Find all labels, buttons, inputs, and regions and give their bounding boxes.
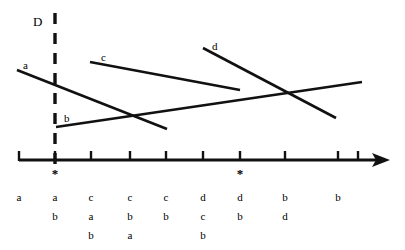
axis-asterisk-marker-0: * bbox=[49, 167, 61, 180]
data-line-c bbox=[90, 62, 240, 90]
column-stack-7: bd bbox=[273, 188, 297, 226]
column-4-item-0: c bbox=[154, 188, 178, 207]
column-stack-1: ab bbox=[43, 188, 67, 226]
column-3-item-1: b bbox=[118, 207, 142, 226]
column-2-item-0: c bbox=[79, 188, 103, 207]
column-5-item-2: b bbox=[191, 226, 215, 245]
column-stack-4: cb bbox=[154, 188, 178, 226]
diagram-canvas: D abcd ** aabcabcbacbdcbdbbdb bbox=[0, 0, 405, 250]
column-stack-6: db bbox=[228, 188, 252, 226]
column-stack-8: b bbox=[326, 188, 350, 207]
axis-asterisk-marker-1: * bbox=[234, 167, 246, 180]
column-7-item-1: d bbox=[273, 207, 297, 226]
axis-group bbox=[19, 151, 390, 167]
line-label-a: a bbox=[23, 60, 28, 71]
column-4-item-1: b bbox=[154, 207, 178, 226]
column-6-item-1: b bbox=[228, 207, 252, 226]
column-1-item-0: a bbox=[43, 188, 67, 207]
column-3-item-0: c bbox=[118, 188, 142, 207]
column-3-item-2: a bbox=[118, 226, 142, 245]
column-1-item-1: b bbox=[43, 207, 67, 226]
column-2-item-1: a bbox=[79, 207, 103, 226]
column-2-item-2: b bbox=[79, 226, 103, 245]
column-5-item-1: c bbox=[191, 207, 215, 226]
column-stack-5: dcb bbox=[191, 188, 215, 245]
column-6-item-0: d bbox=[228, 188, 252, 207]
data-line-a bbox=[17, 70, 167, 129]
column-7-item-0: b bbox=[273, 188, 297, 207]
column-stack-3: cba bbox=[118, 188, 142, 245]
data-line-d bbox=[203, 48, 336, 118]
column-5-item-0: d bbox=[191, 188, 215, 207]
column-stack-0: a bbox=[7, 188, 31, 207]
line-label-b: b bbox=[64, 113, 70, 124]
line-label-d: d bbox=[212, 41, 218, 52]
column-0-item-0: a bbox=[7, 188, 31, 207]
column-8-item-0: b bbox=[326, 188, 350, 207]
line-label-c: c bbox=[101, 52, 106, 63]
column-stack-2: cab bbox=[79, 188, 103, 245]
dashed-line-label-d: D bbox=[33, 15, 42, 28]
